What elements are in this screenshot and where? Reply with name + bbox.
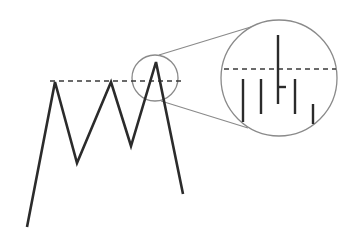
breakout-diagram: [0, 0, 361, 249]
price-zigzag-line: [27, 62, 183, 227]
